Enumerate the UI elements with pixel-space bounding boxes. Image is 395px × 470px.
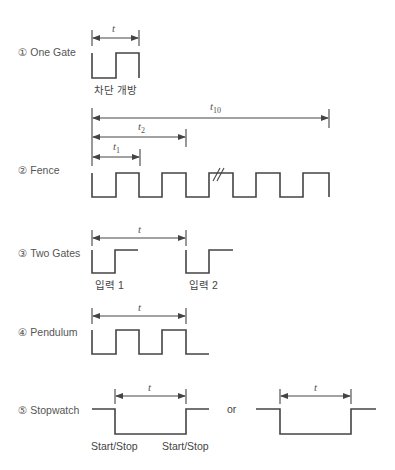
one-gate-diagram	[92, 30, 139, 78]
pendulum-diagram	[92, 308, 209, 354]
timing-diagram	[0, 0, 395, 470]
two-gates-diagram	[92, 230, 233, 273]
stopwatch-diagram	[92, 389, 209, 434]
fence-diagram	[92, 108, 329, 197]
stopwatch-alt-diagram	[256, 389, 376, 434]
